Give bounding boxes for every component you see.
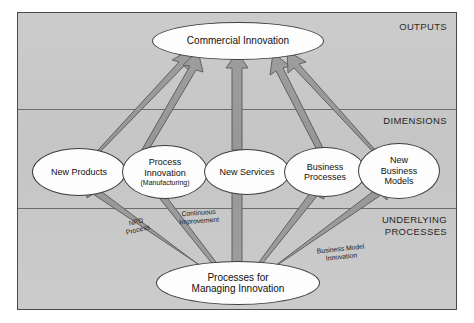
node-process-innovation[interactable]: Process Innovation (Manufacturing) <box>122 145 208 199</box>
node-process-innovation-label-line3: (Manufacturing) <box>140 178 189 187</box>
node-business-processes[interactable]: Business Processes <box>284 147 366 197</box>
node-business-processes-label-line2: Processes <box>304 172 346 183</box>
node-new-business-models[interactable]: New Business Models <box>358 143 440 199</box>
figure-canvas: OUTPUTS DIMENSIONS UNDERLYING PROCESSES <box>0 0 474 323</box>
diagram-panel: OUTPUTS DIMENSIONS UNDERLYING PROCESSES <box>17 12 457 310</box>
node-process-innovation-label-line2: Innovation <box>140 168 189 179</box>
node-new-business-models-label-line3: Models <box>381 176 418 187</box>
node-commercial-innovation[interactable]: Commercial Innovation <box>152 22 324 60</box>
node-new-products-label: New Products <box>51 167 107 178</box>
arrow-new-services-to-commercial <box>226 52 248 150</box>
node-new-business-models-label-line2: Business <box>381 166 418 177</box>
node-new-business-models-label-line1: New <box>381 155 418 166</box>
node-business-processes-label-line1: Business <box>304 162 346 173</box>
node-processes-label-line1: Processes for <box>192 272 285 284</box>
node-new-services[interactable]: New Services <box>204 149 290 195</box>
node-processes-for-managing-innovation[interactable]: Processes for Managing Innovation <box>156 261 320 305</box>
node-new-services-label: New Services <box>219 167 274 178</box>
node-new-products[interactable]: New Products <box>32 148 126 196</box>
node-commercial-innovation-label: Commercial Innovation <box>187 36 289 47</box>
node-process-innovation-label-line1: Process <box>140 157 189 168</box>
node-processes-label-line2: Managing Innovation <box>192 283 285 295</box>
